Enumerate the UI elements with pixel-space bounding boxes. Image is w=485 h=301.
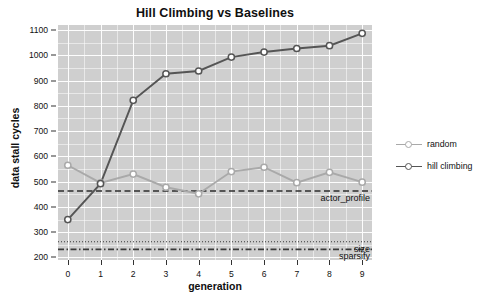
data-point: [359, 179, 365, 185]
y-tick-mark: [51, 257, 56, 258]
x-tick-mark: [101, 260, 102, 265]
data-point: [65, 162, 71, 168]
data-point: [163, 71, 169, 77]
x-tick-label: 1: [98, 269, 103, 279]
x-tick-mark: [166, 260, 167, 265]
data-point: [163, 184, 169, 190]
y-tick-mark: [51, 80, 56, 81]
y-axis-label: data stall cycles: [9, 73, 21, 223]
y-tick-mark: [51, 156, 56, 157]
x-tick-mark: [329, 260, 330, 265]
x-tick-label: 7: [294, 269, 299, 279]
y-tick-label: 800: [34, 101, 48, 111]
data-point: [261, 49, 267, 55]
y-tick-mark: [51, 30, 56, 31]
data-point: [130, 97, 136, 103]
data-point: [261, 164, 267, 170]
x-tick-mark: [297, 260, 298, 265]
data-point: [294, 180, 300, 186]
data-point: [326, 169, 332, 175]
y-tick-label: 900: [34, 76, 48, 86]
y-tick-label: 500: [34, 177, 48, 187]
x-tick-mark: [133, 260, 134, 265]
y-tick-mark: [51, 232, 56, 233]
x-tick-label: 8: [327, 269, 332, 279]
data-point: [359, 30, 365, 36]
chart-title: Hill Climbing vs Baselines: [58, 6, 372, 20]
y-tick-mark: [51, 206, 56, 207]
y-tick-mark: [51, 55, 56, 56]
x-tick-mark: [264, 260, 265, 265]
y-tick-label: 600: [34, 151, 48, 161]
y-tick-label: 400: [34, 202, 48, 212]
y-tick-label: 1100: [30, 25, 48, 35]
y-tick-label: 1000: [29, 50, 48, 60]
x-tick-mark: [362, 260, 363, 265]
x-tick-label: 6: [262, 269, 267, 279]
legend-marker-icon: [396, 138, 422, 150]
x-tick-label: 9: [360, 269, 365, 279]
data-point: [196, 191, 202, 197]
y-tick-mark: [51, 131, 56, 132]
x-tick-label: 5: [229, 269, 234, 279]
y-tick-mark: [51, 105, 56, 106]
x-tick-label: 4: [196, 269, 201, 279]
data-point: [228, 54, 234, 60]
data-point: [65, 216, 71, 222]
x-tick-mark: [231, 260, 232, 265]
legend-item-hill-climbing[interactable]: hill climbing: [396, 155, 482, 177]
legend-label: hill climbing: [427, 161, 472, 171]
data-point: [294, 45, 300, 51]
y-tick-label: 200: [34, 252, 48, 262]
plot-panel: actor_profilesizesparsify: [58, 25, 372, 260]
legend: randomhill climbing: [396, 133, 482, 177]
legend-marker-icon: [396, 160, 422, 172]
y-tick-label: 300: [34, 227, 48, 237]
data-point: [97, 181, 103, 187]
data-point: [326, 43, 332, 49]
legend-item-random[interactable]: random: [396, 133, 482, 155]
data-point: [228, 168, 234, 174]
x-tick-label: 0: [65, 269, 70, 279]
legend-label: random: [427, 139, 457, 149]
reference-line-label-actor_profile: actor_profile: [320, 193, 370, 203]
data-point: [196, 68, 202, 74]
y-tick-mark: [51, 181, 56, 182]
series-layer: [58, 25, 372, 260]
x-tick-mark: [68, 260, 69, 265]
data-point: [130, 171, 136, 177]
chart-figure: Hill Climbing vs Baselines actor_profile…: [0, 0, 485, 301]
y-tick-label: 700: [34, 126, 48, 136]
x-tick-mark: [199, 260, 200, 265]
x-axis-label: generation: [58, 280, 372, 292]
x-tick-label: 3: [164, 269, 169, 279]
series-line-random: [68, 165, 362, 194]
x-tick-label: 2: [131, 269, 136, 279]
